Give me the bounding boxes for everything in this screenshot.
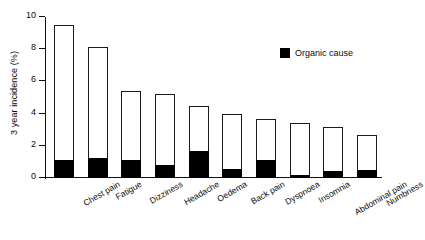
x-axis-label: Headache — [182, 179, 221, 207]
x-axis-label: Back pain — [249, 179, 286, 206]
legend-swatch-organic-cause — [280, 48, 290, 58]
bars-layer — [45, 17, 382, 178]
bar-group[interactable] — [88, 17, 108, 178]
legend: Organic cause — [280, 48, 353, 58]
bar-group[interactable] — [189, 17, 209, 178]
x-axis-label: Insomnia — [316, 179, 351, 205]
bar-group[interactable] — [54, 17, 74, 178]
bar-organic-cause — [189, 151, 209, 178]
bar-organic-cause — [222, 169, 242, 178]
bar-group[interactable] — [155, 17, 175, 178]
y-tick-label: 8 — [31, 42, 36, 52]
bar-total — [54, 25, 74, 178]
y-axis-title: 3 year incidence (%) — [9, 13, 19, 173]
y-tick-label: 6 — [31, 74, 36, 84]
bar-group[interactable] — [357, 17, 377, 178]
plot-area: 0246810 — [45, 17, 382, 178]
bar-organic-cause — [121, 160, 141, 178]
x-axis-labels: Chest painFatigueDizzinessHeadacheOedema… — [45, 179, 386, 240]
y-tick-label: 10 — [26, 10, 36, 20]
bar-organic-cause — [155, 165, 175, 178]
legend-label-organic-cause: Organic cause — [295, 48, 353, 58]
y-tick-label: 2 — [31, 139, 36, 149]
bar-group[interactable] — [222, 17, 242, 178]
x-axis-label: Dizziness — [148, 179, 185, 206]
x-axis-label: Dyspnoea — [283, 179, 321, 207]
bar-group[interactable] — [256, 17, 276, 178]
y-tick-label: 4 — [31, 107, 36, 117]
bar-organic-cause — [357, 170, 377, 178]
bar-group[interactable] — [323, 17, 343, 178]
y-tick-label: 0 — [31, 171, 36, 181]
bar-group[interactable] — [121, 17, 141, 178]
bar-organic-cause — [290, 175, 310, 178]
x-axis-label: Oedema — [215, 179, 248, 204]
bar-total — [290, 123, 310, 178]
bar-organic-cause — [323, 171, 343, 178]
bar-group[interactable] — [290, 17, 310, 178]
bar-organic-cause — [88, 158, 108, 178]
bar-organic-cause — [256, 160, 276, 178]
bar-organic-cause — [54, 160, 74, 179]
